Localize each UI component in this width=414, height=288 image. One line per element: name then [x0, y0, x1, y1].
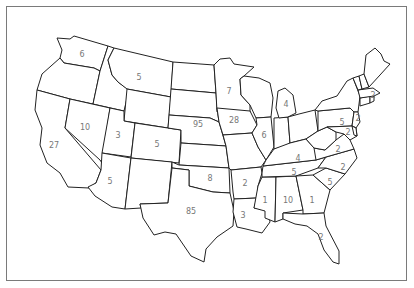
label-ca: 27	[49, 141, 59, 150]
label-sc: 5	[327, 178, 332, 187]
label-nv: 10	[80, 123, 90, 132]
label-ny: 5	[339, 118, 344, 127]
label-ne: 95	[193, 120, 203, 129]
label-ar: 2	[242, 179, 247, 188]
label-ks: 8	[207, 174, 212, 183]
label-ut: 3	[115, 131, 120, 140]
label-tx: 85	[186, 207, 196, 216]
state-nm[interactable]	[125, 158, 172, 209]
label-fl: 2	[318, 233, 323, 242]
us-map: 6 5 10 3 27 5 95 7 28 6 4 5 2 2 2 5 8 85…	[0, 0, 414, 288]
label-al: 10	[283, 196, 293, 205]
state-me[interactable]	[364, 48, 390, 87]
label-ms: 1	[262, 196, 267, 205]
label-az: 5	[107, 177, 112, 186]
label-md: 2	[345, 128, 350, 137]
label-va: 2	[335, 145, 340, 154]
label-co: 5	[154, 140, 159, 149]
label-ky: 4	[295, 154, 300, 163]
state-ny[interactable]	[315, 78, 360, 112]
state-ks[interactable]	[179, 143, 229, 168]
label-ia: 28	[229, 116, 239, 125]
label-ga: 1	[309, 196, 314, 205]
label-mi: 4	[283, 100, 288, 109]
state-nd[interactable]	[171, 62, 216, 93]
label-nc: 2	[340, 163, 345, 172]
label-ma: 2	[370, 91, 375, 100]
label-il: 6	[261, 131, 266, 140]
state-fl[interactable]	[283, 213, 339, 264]
label-tn: 5	[291, 168, 296, 177]
label-la: 3	[240, 211, 245, 220]
label-wa: 6	[79, 50, 84, 59]
label-mt: 5	[136, 73, 141, 82]
label-mn: 7	[226, 87, 231, 96]
label-nj: 2	[355, 114, 360, 123]
